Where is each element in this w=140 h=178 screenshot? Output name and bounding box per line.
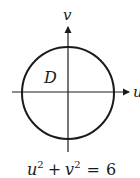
u-axis-label: u — [133, 83, 140, 101]
eq-v-exp: 2 — [74, 159, 80, 170]
v-axis-label: v — [63, 6, 72, 24]
eq-u-exp: 2 — [37, 159, 43, 170]
circle-equation: u2+v2=6 — [27, 159, 116, 178]
eq-v: v — [65, 160, 74, 178]
eq-equals: = — [87, 160, 100, 178]
eq-u: u — [27, 160, 37, 178]
eq-rhs: 6 — [106, 160, 116, 178]
disk-diagram: v u D u2+v2=6 — [0, 0, 140, 178]
region-label: D — [43, 68, 57, 87]
eq-plus: + — [48, 160, 61, 178]
